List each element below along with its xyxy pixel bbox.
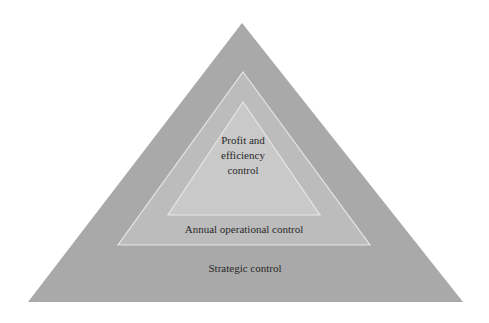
profit-efficiency-control-label: Profit and efficiency control — [221, 133, 265, 178]
inner-label-line-3: control — [221, 163, 265, 178]
annual-operational-control-label: Annual operational control — [185, 223, 304, 236]
inner-label-line-2: efficiency — [221, 148, 265, 163]
control-pyramid-diagram: Profit and efficiency control Annual ope… — [0, 0, 489, 323]
strategic-control-label: Strategic control — [208, 262, 281, 275]
inner-label-line-1: Profit and — [221, 133, 265, 148]
